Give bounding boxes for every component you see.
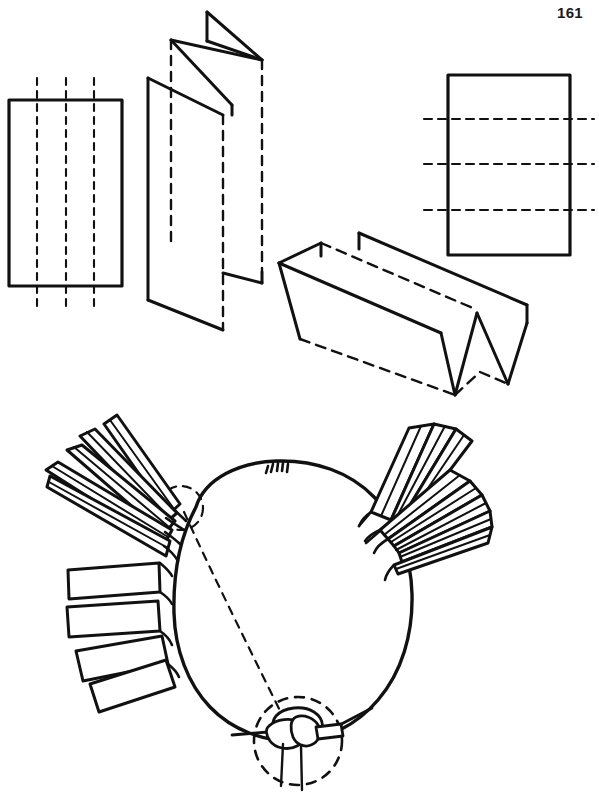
whip-stroke-2 [271, 464, 273, 472]
knot-tail-right [316, 724, 343, 739]
left-bind-6 [160, 592, 172, 604]
figure-accordion-horizontal [279, 233, 527, 395]
front-panel-left-edge [279, 263, 300, 339]
knot-end-left [281, 744, 283, 786]
whip-stroke-3 [277, 463, 278, 471]
zigzag-up-1 [455, 313, 477, 395]
right-bind-4 [385, 565, 394, 580]
accordion-horizontal-front-panel [279, 243, 455, 395]
whip-stroke-4 [282, 463, 283, 471]
hidden-edge-bottom-long [300, 339, 455, 395]
top-binding-mark [266, 463, 288, 473]
front-panel-left-slope [279, 243, 321, 263]
front-panel-right-edge [441, 333, 455, 395]
accordion-vertical-front-panel [148, 78, 223, 330]
right-strip-cluster [359, 424, 492, 580]
bottom-knot [232, 708, 372, 790]
line-art-illustration [0, 0, 599, 802]
lower-step-ledge [223, 273, 262, 283]
hidden-edge-top-long [321, 243, 475, 309]
figure-knotted-ring [46, 415, 492, 790]
sheet-outline-vertical [9, 100, 122, 286]
accordion-horizontal-zigzag-end [455, 313, 527, 395]
knot-end-right [301, 746, 302, 790]
accordion-vertical-upper-band [171, 40, 262, 115]
zigzag-up-2 [508, 323, 527, 384]
figure-accordion-vertical [148, 12, 262, 330]
right-bind-3 [374, 539, 388, 553]
left-bind-5 [160, 563, 172, 576]
figure-canvas [0, 0, 599, 802]
whip-stroke-1 [266, 466, 268, 473]
figure-flat-vertical-folds [9, 78, 122, 308]
left-strip-7 [67, 601, 160, 637]
diagram-page: 161 [0, 0, 599, 802]
knot-cord-left [232, 732, 268, 735]
accordion-vertical-lower-step [223, 272, 262, 283]
whip-stroke-5 [287, 464, 288, 472]
right-bind-closure [359, 512, 371, 526]
accordion-vertical-hidden-edges [171, 40, 262, 330]
knot-alignment-guide [184, 512, 291, 733]
front-panel-upper-edge [279, 263, 441, 333]
left-strip-cluster [46, 415, 186, 712]
vertical-fold-lines [37, 78, 94, 308]
figure-flat-horizontal-folds [424, 75, 594, 255]
left-strip-6 [68, 563, 160, 599]
front-panel-bottom-edge [148, 300, 223, 330]
